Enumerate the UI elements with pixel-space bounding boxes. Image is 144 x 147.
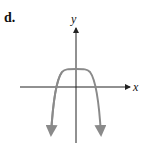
graph bbox=[0, 0, 144, 147]
